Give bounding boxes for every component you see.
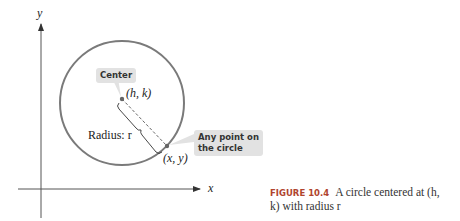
center-callout: Center xyxy=(96,68,136,83)
center-point xyxy=(120,97,124,101)
circle-point xyxy=(165,144,169,148)
circle-point-coordinates: (x, y) xyxy=(163,151,188,166)
y-axis-label: y xyxy=(37,6,42,21)
center-coordinates-text: (h, k) xyxy=(126,86,151,100)
figure-label: FIGURE 10.4 xyxy=(270,188,329,198)
point-callout-line2: the circle xyxy=(198,143,259,154)
point-callout: Any point on the circle xyxy=(194,130,263,156)
x-axis-label: x xyxy=(208,181,213,196)
center-coordinates: (h, k) xyxy=(126,86,151,101)
figure-caption: FIGURE 10.4A circle centered at (h, k) w… xyxy=(270,186,450,213)
radius-label: Radius: r xyxy=(88,128,132,143)
point-callout-line1: Any point on xyxy=(198,132,259,143)
